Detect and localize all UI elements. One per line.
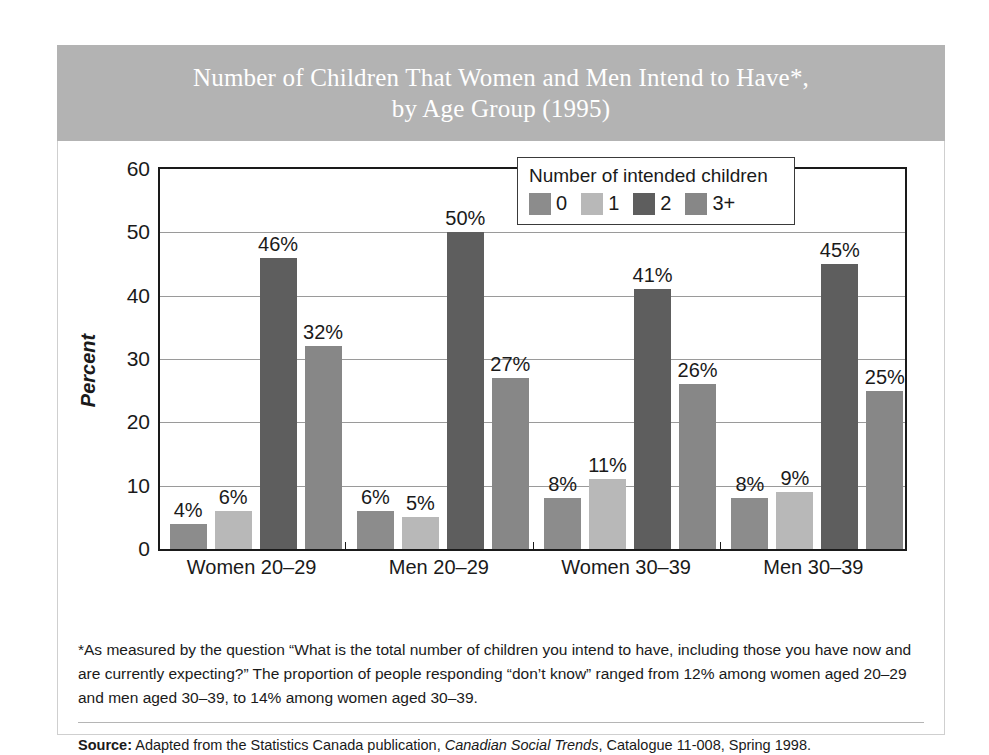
x-axis-tick-label: Men 20–29: [389, 556, 489, 579]
y-axis-tick-label: 40: [104, 284, 150, 308]
source-text-after: , Catalogue 11-008, Spring 1998.: [598, 737, 811, 753]
x-axis-tick-label: Women 20–29: [187, 556, 317, 579]
legend-swatch-icon: [685, 193, 707, 215]
y-axis-title: Percent: [77, 311, 100, 431]
legend-item-label: 1: [608, 192, 619, 215]
chart-plot-area: Percent 0102030405060 4%6%46%32%6%5%50%2…: [58, 142, 944, 736]
legend-item: 2: [633, 192, 671, 215]
y-axis-tick-label: 60: [104, 157, 150, 181]
legend-item-label: 0: [556, 192, 567, 215]
y-axis-tick-label: 30: [104, 347, 150, 371]
y-axis-tick-label: 20: [104, 410, 150, 434]
gridline: [160, 359, 905, 360]
x-axis-tick-label: Men 30–39: [763, 556, 863, 579]
gridline: [160, 296, 905, 297]
y-axis-tick-labels: 0102030405060: [100, 167, 150, 551]
y-axis-tick-label: 10: [104, 474, 150, 498]
legend-item-label: 3+: [712, 192, 735, 215]
legend-title: Number of intended children: [529, 165, 783, 187]
y-axis-tick-label: 50: [104, 220, 150, 244]
source-publication: Canadian Social Trends: [445, 737, 599, 753]
page-title: Number of Children That Women and Men In…: [163, 62, 839, 124]
chart-figure-card: Number of Children That Women and Men In…: [57, 45, 945, 735]
page-title-line-1: Number of Children That Women and Men In…: [193, 62, 809, 93]
source-label: Source:: [78, 737, 132, 753]
chart-footnote: *As measured by the question “What is th…: [78, 638, 924, 710]
page-title-line-2: by Age Group (1995): [193, 93, 809, 124]
legend-item: 1: [581, 192, 619, 215]
source-text-before: Adapted from the Statistics Canada publi…: [132, 737, 445, 753]
chart-legend: Number of intended children 0123+: [517, 157, 795, 225]
gridline: [160, 422, 905, 423]
chart-title-banner: Number of Children That Women and Men In…: [57, 45, 945, 141]
legend-item-label: 2: [660, 192, 671, 215]
y-axis-tick-label: 0: [104, 537, 150, 561]
x-axis-tick-label: Women 30–39: [561, 556, 691, 579]
legend-swatch-icon: [633, 193, 655, 215]
legend-swatch-icon: [581, 193, 603, 215]
legend-swatch-icon: [529, 193, 551, 215]
gridline: [160, 486, 905, 487]
gridline: [160, 232, 905, 233]
legend-item: 3+: [685, 192, 735, 215]
chart-source: Source: Adapted from the Statistics Cana…: [78, 735, 938, 755]
legend-item: 0: [529, 192, 567, 215]
source-divider: [78, 722, 924, 723]
legend-items: 0123+: [529, 192, 783, 215]
